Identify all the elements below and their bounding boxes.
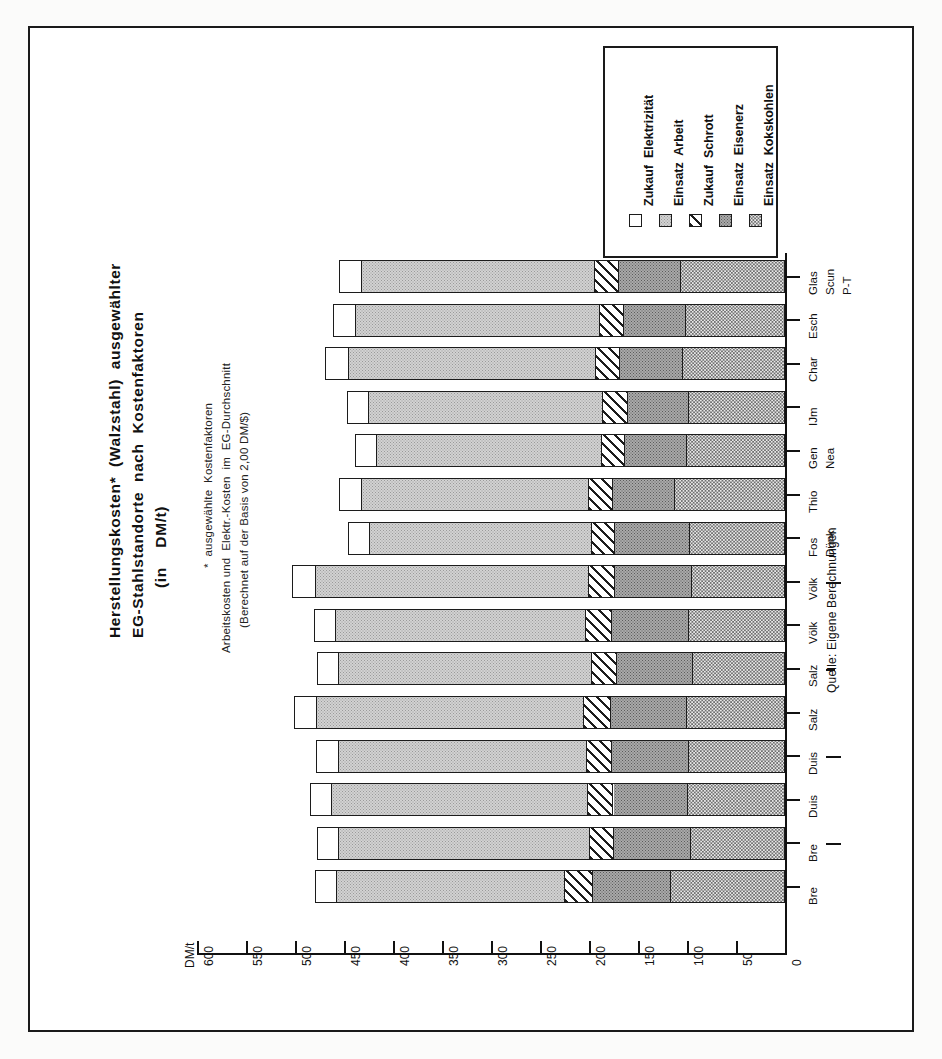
axis-tick-label: 150 — [643, 946, 657, 966]
axis-tick — [344, 941, 346, 955]
bar-segment-schrott — [565, 871, 592, 902]
legend-item-zukauf-schrott-swatch — [689, 214, 702, 227]
axis-tick — [197, 941, 199, 955]
axis-tick — [736, 941, 738, 955]
bar-segment-kokskohlen — [686, 305, 785, 336]
category-tick — [787, 842, 800, 844]
axis-tick — [295, 941, 297, 955]
axis-tick-label: 550 — [251, 946, 265, 966]
category-tick — [787, 755, 800, 757]
category-tick — [787, 712, 800, 714]
bar-segment-arbeit — [362, 261, 595, 292]
legend-item-einsatz-eisenerz-swatch — [719, 214, 732, 227]
bar-segment-arbeit — [349, 348, 596, 379]
axis-tick — [687, 941, 689, 955]
bar-segment-schrott — [584, 697, 610, 728]
bar-segment-arbeit — [339, 653, 592, 684]
bar-segment-eisenerz — [615, 566, 691, 597]
bar-segment-elektrizität — [318, 828, 340, 859]
value-axis-baseline — [785, 253, 787, 953]
bar-segment-arbeit — [332, 784, 588, 815]
category-tick — [787, 406, 800, 408]
bar-segment-arbeit — [362, 479, 589, 510]
axis-tick — [246, 941, 248, 955]
legend-item-einsatz-kokskohlen-swatch — [749, 214, 762, 227]
axis-tick — [491, 941, 493, 955]
legend-item-einsatz-eisenerz-label: Einsatz Eisenerz — [732, 104, 746, 206]
bar-segment-arbeit — [356, 305, 600, 336]
bar-char — [325, 347, 785, 380]
category-tick — [787, 363, 800, 365]
category-label-dash — [826, 756, 841, 758]
bar-segment-kokskohlen — [689, 610, 785, 641]
legend-item-zukauf-schrott-label: Zukauf Schrott — [702, 114, 716, 206]
bar-segment-elektrizität — [326, 348, 349, 379]
legend-item-einsatz-kokskohlen-label: Einsatz Kokskohlen — [762, 84, 776, 206]
axis-tick-label: 500 — [300, 946, 314, 966]
bar-segment-elektrizität — [317, 741, 340, 772]
bar-segment-elektrizität — [316, 871, 338, 902]
category-tick — [787, 624, 800, 626]
axis-tick-label: 100 — [692, 946, 706, 966]
category-tick — [787, 537, 800, 539]
axis-tick-label: 50 — [741, 953, 755, 966]
bar-segment-arbeit — [369, 392, 602, 423]
category-label: Völk — [807, 578, 819, 600]
bar-segment-eisenerz — [620, 348, 683, 379]
category-label: Thio — [807, 491, 819, 513]
bar-segment-eisenerz — [611, 697, 687, 728]
bar-duis — [316, 740, 785, 773]
bar-gen — [355, 434, 785, 467]
bar-segment-schrott — [589, 479, 613, 510]
category-label: Duis — [807, 795, 819, 818]
bar-segment-eisenerz — [628, 392, 689, 423]
category-tick — [787, 494, 800, 496]
category-tick — [787, 886, 800, 888]
bar-segment-arbeit — [317, 697, 585, 728]
bar-segment-kokskohlen — [689, 392, 785, 423]
bar-völk — [292, 565, 785, 598]
bar-segment-schrott — [596, 348, 621, 379]
bar-segment-elektrizität — [340, 479, 362, 510]
bar-segment-elektrizität — [293, 566, 316, 597]
bar-segment-schrott — [602, 435, 626, 466]
bar-völk — [314, 609, 785, 642]
legend-item-zukauf-elektrizitaet-swatch — [629, 214, 642, 227]
bar-segment-kokskohlen — [681, 261, 785, 292]
bar-thio — [339, 478, 785, 511]
bar-segment-arbeit — [339, 828, 590, 859]
category-label: P-T — [841, 276, 853, 295]
bar-segment-kokskohlen — [687, 435, 785, 466]
category-label: Scun — [824, 269, 836, 295]
bar-segment-arbeit — [339, 741, 587, 772]
legend-item-einsatz-arbeit-label: Einsatz Arbeit — [672, 120, 686, 206]
bar-ijm — [347, 391, 785, 424]
category-tick — [787, 668, 800, 670]
axis-tick-label: 450 — [349, 946, 363, 966]
axis-tick — [393, 941, 395, 955]
bar-segment-arbeit — [336, 610, 586, 641]
axis-tick-label: 300 — [496, 946, 510, 966]
bar-segment-arbeit — [316, 566, 589, 597]
bar-segment-elektrizität — [356, 435, 378, 466]
bar-segment-elektrizität — [340, 261, 362, 292]
bar-glas — [339, 260, 785, 293]
axis-tick — [785, 941, 787, 955]
category-label: Völk — [807, 621, 819, 643]
bar-segment-schrott — [600, 305, 625, 336]
category-tick — [787, 450, 800, 452]
bar-segment-schrott — [603, 392, 628, 423]
axis-tick — [638, 941, 640, 955]
category-label: Fos — [807, 537, 819, 556]
axis-tick — [540, 941, 542, 955]
axis-unit-label: DM/t — [183, 943, 197, 968]
category-label: Esch — [807, 313, 819, 339]
bar-bre — [317, 827, 785, 860]
bar-segment-eisenerz — [613, 479, 676, 510]
category-tick — [787, 799, 800, 801]
bar-segment-arbeit — [377, 435, 601, 466]
bar-fos — [348, 522, 785, 555]
bar-segment-eisenerz — [612, 741, 689, 772]
legend-item-einsatz-arbeit-swatch — [659, 214, 672, 227]
bar-duis — [310, 783, 785, 816]
